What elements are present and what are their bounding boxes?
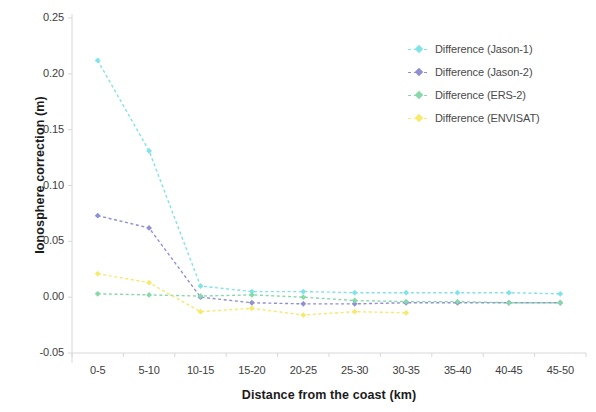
series-0-point-5 [352, 290, 358, 296]
series-1-point-4 [300, 301, 306, 307]
ionosphere-correction-chart: 0.250.200.150.100.050.00-0.05 0-55-1010-… [0, 0, 596, 412]
legend-marker-icon-0 [408, 44, 430, 56]
x-tick-label-7: 35-40 [430, 365, 486, 376]
series-2-point-3 [249, 292, 255, 298]
series-3-point-2 [198, 309, 204, 315]
x-tick-label-8: 40-45 [481, 365, 537, 376]
legend-label-3: Difference (ENVISAT) [435, 113, 540, 124]
series-0-point-7 [455, 290, 461, 296]
series-0-point-6 [403, 290, 409, 296]
series-1-point-1 [146, 225, 152, 231]
series-3-point-0 [95, 271, 101, 277]
x-axis-title: Distance from the coast (km) [72, 388, 586, 402]
y-axis-title: Ionosphere correction (m) [33, 50, 47, 300]
x-tick-label-9: 45-50 [532, 365, 588, 376]
series-0-point-1 [146, 148, 152, 154]
x-tick-label-4: 20-25 [275, 365, 331, 376]
legend-item-1[interactable]: Difference (Jason-2) [408, 61, 588, 84]
legend-label-2: Difference (ERS-2) [435, 90, 526, 101]
x-tick-label-5: 25-30 [327, 365, 383, 376]
series-3-point-3 [249, 305, 255, 311]
series-line-1 [98, 216, 561, 304]
legend-label-0: Difference (Jason-1) [435, 44, 532, 55]
y-tick-label-6: -0.05 [20, 347, 64, 358]
series-1-point-0 [95, 213, 101, 219]
series-0-point-0 [95, 58, 101, 64]
series-0-point-4 [300, 289, 306, 295]
series-2-point-1 [146, 292, 152, 298]
series-3-point-4 [300, 312, 306, 318]
series-2-point-5 [352, 298, 358, 304]
x-tick-label-1: 5-10 [121, 365, 177, 376]
x-tick-label-2: 10-15 [173, 365, 229, 376]
legend-item-0[interactable]: Difference (Jason-1) [408, 38, 588, 61]
chart-legend: Difference (Jason-1)Difference (Jason-2)… [408, 38, 588, 130]
series-3-point-5 [352, 309, 358, 315]
series-3-point-1 [146, 280, 152, 286]
x-tick-label-3: 15-20 [224, 365, 280, 376]
series-2-point-4 [300, 294, 306, 300]
x-tick-label-6: 30-35 [378, 365, 434, 376]
series-2-point-8 [506, 300, 512, 306]
series-0-point-9 [557, 291, 563, 297]
y-tick-label-0: 0.25 [20, 12, 64, 23]
legend-label-1: Difference (Jason-2) [435, 67, 532, 78]
legend-marker-icon-1 [408, 67, 430, 79]
series-2-point-9 [557, 300, 563, 306]
series-2-point-6 [403, 299, 409, 305]
legend-item-2[interactable]: Difference (ERS-2) [408, 84, 588, 107]
series-1-point-3 [249, 300, 255, 306]
series-0-point-2 [198, 283, 204, 289]
series-0-point-8 [506, 290, 512, 296]
legend-marker-icon-2 [408, 90, 430, 102]
series-3-point-6 [403, 310, 409, 316]
series-2-point-7 [455, 299, 461, 305]
legend-item-3[interactable]: Difference (ENVISAT) [408, 107, 588, 130]
series-line-2 [98, 294, 561, 303]
series-2-point-0 [95, 291, 101, 297]
legend-marker-icon-3 [408, 113, 430, 125]
x-tick-label-0: 0-5 [70, 365, 126, 376]
